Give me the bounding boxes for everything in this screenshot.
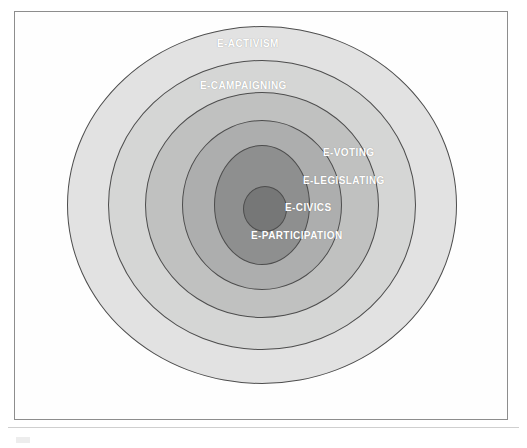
ring-label-e-civics: E-CIVICS — [285, 202, 332, 213]
ring-label-e-activism: E-ACTIVISM — [217, 38, 279, 49]
scan-rule — [8, 427, 519, 428]
ring-e-participation — [243, 186, 287, 232]
ring-label-e-voting: E-VOTING — [323, 147, 375, 158]
concentric-ring-diagram: E-ACTIVISM E-CAMPAIGNING E-VOTING E-LEGI… — [15, 12, 509, 421]
scan-artifact — [16, 437, 30, 443]
figure-root: E-ACTIVISM E-CAMPAIGNING E-VOTING E-LEGI… — [0, 0, 527, 448]
ring-label-e-legislating: E-LEGISLATING — [303, 175, 385, 186]
figure-frame: E-ACTIVISM E-CAMPAIGNING E-VOTING E-LEGI… — [14, 11, 508, 420]
ring-label-e-campaigning: E-CAMPAIGNING — [200, 80, 287, 91]
ring-label-e-participation: E-PARTICIPATION — [251, 230, 343, 241]
